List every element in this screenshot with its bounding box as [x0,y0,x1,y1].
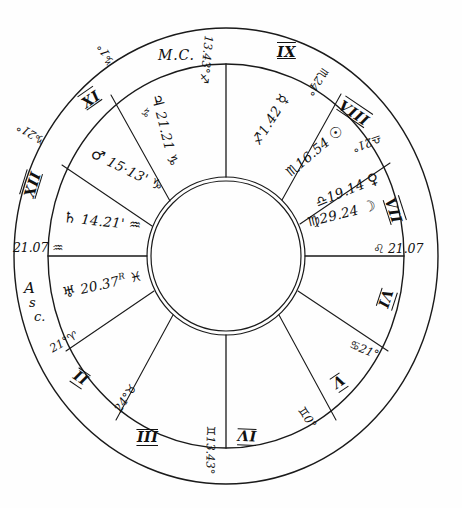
cusp-line-viii [300,163,390,224]
cusp-line-ii [66,291,154,351]
inner-circle-outer [147,177,305,335]
cusp-line-ix [282,94,341,200]
cusp-line-vi [298,291,388,351]
cusp-line-xi [111,95,170,201]
cusp-line-xii [62,165,152,226]
natal-chart-wheel: IX VIII VII VI V IV III II XII XI M.C. A… [0,0,462,508]
inner-circle-inner [151,181,301,331]
cusp-line-v [279,315,336,420]
cusp-line-iii [116,315,173,420]
chart-wheel-graphic [0,0,462,508]
